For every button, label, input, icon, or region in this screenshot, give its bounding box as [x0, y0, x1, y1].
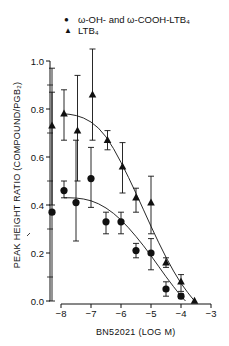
triangle-marker-icon — [147, 198, 155, 205]
y-tick-label: 0.0 — [31, 296, 44, 307]
y-tick-label: 0.8 — [31, 104, 44, 115]
x-tick-label: −8 — [56, 308, 67, 319]
circle-marker-icon — [162, 285, 169, 292]
triangle-marker-icon — [89, 90, 97, 97]
circle-marker-icon — [60, 187, 67, 194]
triangle-marker-icon — [74, 126, 82, 133]
circle-marker-icon — [48, 209, 55, 216]
circle-marker-icon — [117, 218, 124, 225]
data-markers — [48, 90, 198, 303]
fit-curve-circle — [64, 198, 186, 301]
x-tick-label: −6 — [116, 308, 127, 319]
axes: 0.00.20.40.60.81.0−8−7−6−5−4−3 — [27, 56, 216, 320]
stray-mark — [27, 233, 30, 236]
circle-marker-icon — [147, 249, 154, 256]
fit-curves — [64, 114, 195, 301]
x-tick-label: −4 — [176, 308, 187, 319]
x-tick-label: −7 — [86, 308, 97, 319]
y-tick-label: 0.2 — [31, 248, 44, 259]
y-tick-label: 0.4 — [31, 200, 44, 211]
x-tick-label: −5 — [146, 308, 157, 319]
circle-marker-icon — [72, 199, 79, 206]
circle-marker-icon — [102, 218, 109, 225]
x-axis-label: BN52021 (LOG M) — [96, 327, 176, 337]
circle-marker-icon — [87, 175, 94, 182]
chart-plot: 0.00.20.40.60.81.0−8−7−6−5−4−3 — [0, 0, 229, 346]
fit-curve-triangle — [64, 114, 195, 301]
x-tick-label: −3 — [206, 308, 217, 319]
triangle-marker-icon — [60, 110, 68, 117]
y-tick-label: 0.6 — [31, 152, 44, 163]
triangle-marker-icon — [119, 162, 127, 169]
triangle-marker-icon — [104, 136, 112, 143]
y-axis-label: PEAK HEIGHT RATIO (COMPOUND/PGB₂) — [12, 82, 22, 269]
circle-marker-icon — [132, 247, 139, 254]
triangle-marker-icon — [48, 122, 56, 129]
y-tick-label: 1.0 — [31, 56, 44, 67]
circle-marker-icon — [177, 293, 184, 300]
triangle-marker-icon — [132, 194, 140, 201]
